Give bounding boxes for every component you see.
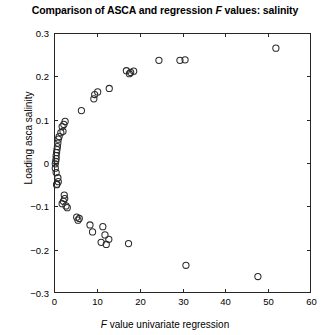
data-point: [273, 45, 279, 51]
x-axis-label: F value univariate regression: [0, 319, 330, 331]
y-tick-label: 0.1: [36, 115, 49, 126]
data-point: [156, 57, 162, 63]
y-tick-label: 0.2: [36, 71, 49, 82]
data-point-markers: [52, 45, 279, 280]
data-point: [103, 241, 109, 247]
y-tick-label: −0.2: [30, 245, 49, 256]
y-axis-ticks: −0.3−0.2−0.100.10.20.3: [30, 28, 311, 299]
data-point: [58, 130, 64, 136]
data-point: [78, 107, 84, 113]
data-point: [52, 165, 58, 171]
x-tick-label: 20: [135, 296, 146, 307]
y-tick-label: 0.3: [36, 28, 49, 39]
x-tick-label: 60: [306, 296, 317, 307]
data-point: [87, 222, 93, 228]
x-tick-label: 50: [263, 296, 274, 307]
data-point: [255, 273, 261, 279]
data-point: [89, 229, 95, 235]
data-point: [100, 224, 106, 230]
scatter-plot: 0102030405060 −0.3−0.2−0.100.10.20.3: [0, 0, 330, 335]
axes-frame: [55, 34, 311, 293]
x-tick-label: 40: [220, 296, 231, 307]
y-tick-label: −0.3: [30, 288, 49, 299]
x-axis-label-rest: value univariate regression: [107, 319, 229, 330]
x-tick-label: 30: [178, 296, 189, 307]
y-axis-label: Loading asca salinity: [23, 48, 35, 228]
x-tick-label: 10: [92, 296, 103, 307]
data-point: [64, 205, 70, 211]
x-tick-label: 0: [52, 296, 57, 307]
data-point: [91, 96, 97, 102]
x-axis-ticks: 0102030405060: [52, 33, 317, 307]
figure-container: Comparison of ASCA and regression F valu…: [0, 0, 330, 335]
axes-box: [55, 34, 311, 293]
data-point: [106, 85, 112, 91]
data-point: [183, 262, 189, 268]
y-tick-label: 0: [44, 158, 49, 169]
data-point: [125, 241, 131, 247]
